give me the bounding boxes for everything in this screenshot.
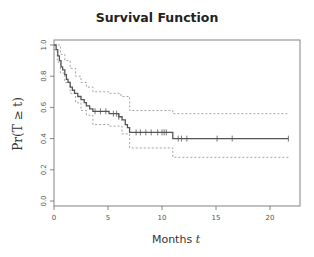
y-tick-label: 0.8 (40, 71, 48, 82)
x-axis: 05101520 (52, 206, 275, 222)
survival-estimate-line (54, 45, 288, 139)
x-tick-label: 0 (52, 214, 56, 222)
y-tick-label: 0.6 (40, 101, 48, 113)
y-tick-label: 1.0 (40, 39, 48, 50)
survival-curve (54, 45, 288, 139)
censor-marks (95, 108, 288, 141)
lower-confidence-band (54, 50, 288, 158)
confidence-bands (54, 45, 288, 157)
x-axis-label: Months t (152, 233, 201, 246)
y-axis-label: Pr(T ≥ t) (11, 97, 25, 151)
x-axis-label-text: Months (152, 233, 192, 246)
y-tick-label: 0.4 (40, 132, 48, 144)
x-tick-label: 10 (158, 214, 167, 222)
x-tick-label: 15 (212, 214, 221, 222)
y-tick-label: 0.0 (40, 195, 48, 206)
plot-frame (54, 40, 300, 206)
x-axis-label-variable: t (196, 233, 201, 246)
x-tick-label: 20 (266, 214, 275, 222)
plot-area-border (54, 40, 300, 206)
upper-confidence-band (54, 45, 288, 114)
x-tick-label: 5 (106, 214, 110, 222)
y-tick-label: 0.2 (40, 164, 48, 175)
survival-plot: 0.00.20.40.60.81.0 05101520 Months t Pr(… (0, 0, 314, 257)
y-axis: 0.00.20.40.60.81.0 (40, 39, 54, 206)
